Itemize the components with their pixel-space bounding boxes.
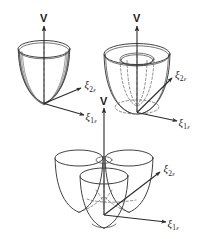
panel-top-right: V ξ 2 ε ξ 1 ε (104, 12, 190, 131)
xi1-axis-label-bottom: ξ 1 ε (168, 218, 180, 233)
xi1-axis-line-top-left (44, 104, 84, 116)
xi2-epsilon-top-left: ε (93, 86, 96, 93)
xi1-epsilon-bottom: ε (176, 224, 179, 231)
panel-top-left: V ξ 2 ε ξ 1 ε (18, 12, 97, 125)
front-well-bottom-arc-bottom (92, 224, 116, 228)
xi2-axis-label-top-right: ξ 2 ε (175, 69, 187, 84)
v-axis-label-top-left: V (40, 12, 48, 24)
rear-left-well-left-flank-bottom (55, 159, 79, 213)
xi2-epsilon-bottom: ε (172, 170, 175, 177)
xi1-epsilon-top-left: ε (94, 117, 97, 124)
xi1-axis-line-bottom (104, 215, 166, 222)
diagram-canvas: V ξ 2 ε ξ 1 ε (0, 0, 207, 239)
v-axis-label-bottom: V (100, 95, 108, 107)
panel-bottom: V ξ 2 ε ξ 1 ε (55, 95, 179, 232)
rear-right-well-right-flank-bottom (129, 159, 153, 213)
saddle-dashed-cross-bottom (87, 199, 136, 202)
rear-right-well-rim-bottom (105, 150, 153, 166)
xi2-axis-line-top-left (44, 88, 81, 104)
v-axis-label-top-right: V (133, 12, 141, 24)
front-well-left-flank-bottom (80, 177, 104, 229)
xi1-axis-label-top-right: ξ 1 ε (179, 117, 191, 132)
potential-energy-surfaces-figure: V ξ 2 ε ξ 1 ε (0, 0, 207, 239)
xi2-axis-label-top-left: ξ 2 ε (85, 79, 97, 94)
xi1-axis-label-top-left: ξ 1 ε (86, 111, 98, 126)
xi1-axis-line-top-right (137, 113, 177, 122)
xi2-axis-line-bottom (104, 172, 160, 215)
xi2-epsilon-top-right: ε (184, 75, 187, 82)
rear-left-well-rim-bottom (55, 150, 103, 166)
rear-right-well-left-flank-bottom (105, 159, 129, 213)
front-well-right-flank-bottom (104, 177, 128, 229)
xi1-epsilon-top-right: ε (187, 123, 190, 130)
xi2-axis-label-bottom: ξ 2 ε (164, 163, 176, 178)
rear-left-well-right-flank-bottom (79, 159, 103, 213)
